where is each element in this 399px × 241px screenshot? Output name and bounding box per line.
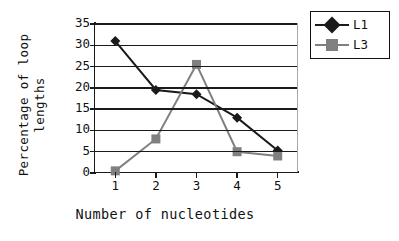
y-axis-tick-label: 35 (64, 15, 90, 31)
diamond-marker-icon (192, 89, 202, 99)
x-axis-tick-label: 1 (103, 178, 127, 193)
gridline (95, 87, 297, 89)
y-axis-tick-label: 20 (64, 79, 90, 95)
chart-figure: Percentage of loop lengths 0510152025303… (0, 0, 399, 241)
y-axis-title: Percentage of loop lengths (11, 20, 53, 190)
gridline (95, 23, 297, 25)
gridline (95, 130, 297, 132)
y-axis-title-line1: Percentage of loop (16, 34, 32, 177)
gridline (95, 66, 297, 68)
x-axis-title: Number of nucleotides (0, 206, 330, 222)
square-marker-icon (151, 134, 160, 143)
x-axis-tick-label: 5 (266, 178, 290, 193)
y-axis-tick-labels: 05101520253035 (62, 0, 90, 241)
legend-label-l1: L1 (353, 18, 368, 32)
y-axis-tick-label: 25 (64, 58, 90, 74)
x-axis-tick-label: 3 (185, 178, 209, 193)
legend-item-l3[interactable]: L3 (315, 35, 385, 55)
y-axis-tick-label: 30 (64, 36, 90, 52)
y-axis-tick-label: 15 (64, 100, 90, 116)
plot-area (95, 23, 298, 172)
series-line-l3 (115, 64, 277, 170)
chart-legend: L1 L3 (310, 11, 390, 59)
gridline (95, 151, 297, 153)
y-axis-tick (90, 87, 96, 89)
legend-item-l1[interactable]: L1 (315, 15, 385, 35)
y-axis-tick (90, 66, 96, 68)
square-marker-icon (192, 60, 201, 69)
gridline (95, 45, 297, 47)
legend-label-l3: L3 (353, 38, 368, 52)
y-axis-tick (90, 23, 96, 25)
x-axis-tick-labels: 12345 (0, 178, 399, 196)
x-axis-tick-label: 4 (225, 178, 249, 193)
y-axis-tick (90, 130, 96, 132)
y-axis-tick-label: 10 (64, 121, 90, 137)
y-axis-title-line2: lengths (32, 77, 48, 132)
square-marker-icon (326, 39, 338, 51)
y-axis-tick (90, 151, 96, 153)
y-axis-tick (90, 45, 96, 47)
y-axis-tick-label: 5 (64, 143, 90, 159)
square-marker-icon (273, 151, 282, 160)
x-axis-tick-label: 2 (144, 178, 168, 193)
diamond-marker-icon (324, 17, 341, 34)
gridline (95, 108, 297, 110)
legend-swatch-l3 (315, 38, 349, 52)
legend-swatch-l1 (315, 18, 349, 32)
y-axis-tick (90, 108, 96, 110)
